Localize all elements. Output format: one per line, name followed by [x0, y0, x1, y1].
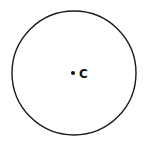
- circle-diagram: C: [0, 0, 144, 143]
- center-label: C: [79, 67, 88, 81]
- center-point: [71, 71, 75, 75]
